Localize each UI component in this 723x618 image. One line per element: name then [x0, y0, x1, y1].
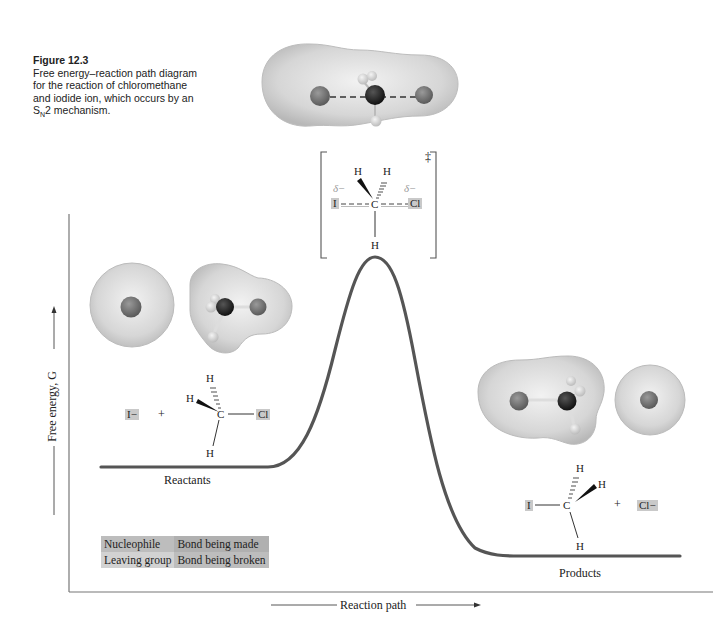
product-atom-h-top: H — [576, 463, 584, 474]
chloromethane-model — [190, 264, 292, 353]
product-atom-h-bottom: H — [576, 541, 584, 552]
legend-row: Leaving group Bond being broken — [101, 552, 269, 568]
reactant-plus: + — [158, 407, 165, 422]
ts-atom-h-left: H — [354, 166, 362, 177]
ts-atom-c: C — [371, 199, 378, 210]
nucleophile-iodide: I− — [125, 409, 139, 420]
ts-atom-h-right: H — [383, 166, 391, 177]
reactants-label: Reactants — [164, 473, 211, 488]
product-atom-h-right: H — [598, 479, 606, 490]
legend-bond-broken: Bond being broken — [174, 552, 268, 568]
y-axis-label: Free energy, G — [45, 327, 60, 487]
reactant-wedge-bond — [196, 399, 219, 412]
product-plus: + — [614, 497, 621, 512]
ts-hash-bond — [376, 183, 387, 198]
iodomethane-model — [478, 356, 604, 444]
reactant-atom-h-left: H — [186, 393, 194, 404]
ts-bracket-left — [321, 152, 327, 258]
product-wedge-bond — [575, 484, 597, 502]
product-atom-c: C — [563, 500, 570, 511]
legend-table: Nucleophile Bond being made Leaving grou… — [101, 536, 269, 568]
reactant-atom-h-bottom: H — [206, 448, 214, 459]
x-axis-label: Reaction path — [340, 598, 406, 613]
y-arrowhead-icon — [52, 306, 57, 313]
x-arrowhead-icon — [474, 603, 481, 608]
ts-delta-right: δ− — [404, 182, 417, 194]
iodide-model — [90, 263, 174, 347]
reactant-atom-cl: Cl — [256, 409, 270, 420]
reactant-bond-c-h-bottom — [213, 420, 219, 446]
product-hash-bond — [568, 478, 579, 498]
ts-atom-cl: Cl — [408, 198, 422, 209]
ts-atom-i: I — [331, 198, 339, 209]
product-bond-c-h-bottom — [570, 512, 578, 538]
double-dagger-symbol: ‡ — [425, 150, 431, 165]
legend-bond-made: Bond being made — [174, 536, 268, 552]
legend-nucleophile: Nucleophile — [101, 536, 174, 552]
y-axis-label-text: Free energy, G — [45, 371, 59, 442]
reactant-atom-c: C — [217, 409, 224, 420]
ts-delta-left: δ− — [333, 182, 346, 194]
ts-wedge-bond — [357, 178, 373, 199]
chloride-model — [615, 365, 685, 435]
products-label: Products — [559, 566, 601, 581]
ts-bracket-right — [430, 152, 436, 258]
diagram-canvas — [0, 0, 723, 618]
reactant-atom-h-top: H — [206, 373, 214, 384]
leaving-group-chloride: Cl− — [637, 500, 658, 511]
legend-leaving-group: Leaving group — [101, 552, 174, 568]
reactant-hash-bond — [210, 388, 221, 408]
legend-row: Nucleophile Bond being made — [101, 536, 269, 552]
product-atom-i: I — [525, 500, 533, 511]
transition-state-model — [262, 44, 458, 127]
ts-atom-h-bottom: H — [371, 240, 379, 251]
